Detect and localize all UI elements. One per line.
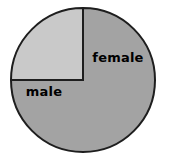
pie-chart-figure: female male xyxy=(0,0,170,162)
pie-chart-svg: female male xyxy=(0,0,170,162)
pie-slice-label-female: female xyxy=(92,50,143,65)
pie-slice-label-male: male xyxy=(26,84,62,99)
